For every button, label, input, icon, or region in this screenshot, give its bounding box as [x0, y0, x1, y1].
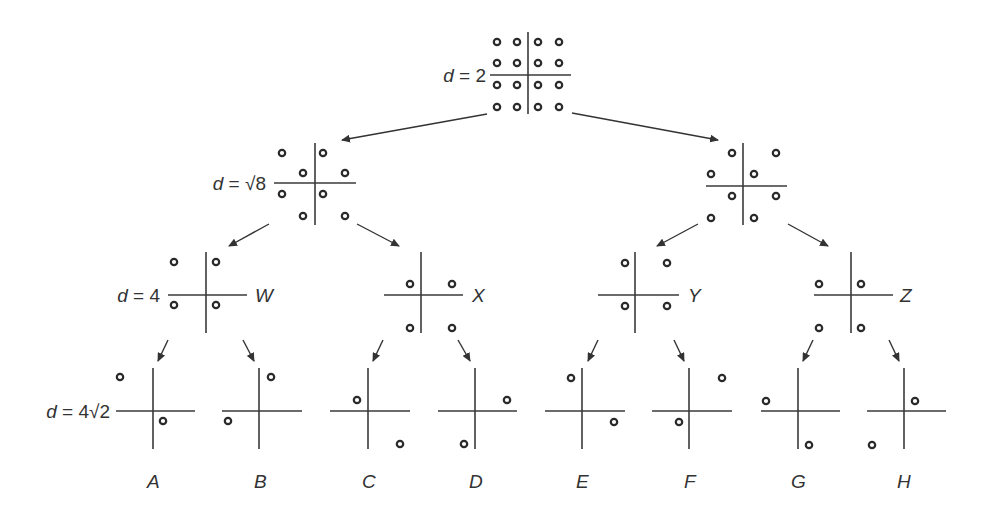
- subset-node-C: C: [330, 368, 410, 492]
- arrow-L1-left-to-W: [229, 224, 269, 246]
- arrow-root-to-L1-right: [572, 113, 718, 140]
- constellation-point-icon: [279, 150, 285, 156]
- constellation-point-icon: [556, 39, 562, 45]
- subset-label: F: [684, 471, 697, 492]
- subset-label: Y: [688, 285, 702, 306]
- constellation-point-icon: [461, 441, 467, 447]
- subset-node-A: A: [116, 368, 195, 492]
- constellation-point-icon: [535, 60, 541, 66]
- constellation-point-icon: [751, 215, 757, 221]
- constellation-point-icon: [556, 60, 562, 66]
- constellation-point-icon: [407, 325, 413, 331]
- constellation-point-icon: [622, 260, 628, 266]
- constellation-point-icon: [751, 171, 757, 177]
- constellation-point-icon: [320, 191, 326, 197]
- constellation-point-icon: [354, 397, 360, 403]
- constellation-point-icon: [535, 104, 541, 110]
- constellation-point-icon: [494, 39, 500, 45]
- min-distance-label: d = 4√2: [46, 401, 110, 422]
- constellation-point-icon: [117, 374, 123, 380]
- constellation-point-icon: [494, 82, 500, 88]
- constellation-point-icon: [869, 442, 875, 448]
- constellation-point-icon: [708, 215, 714, 221]
- constellation-point-icon: [708, 171, 714, 177]
- constellation-point-icon: [320, 150, 326, 156]
- constellation-point-icon: [504, 397, 510, 403]
- constellation-point-icon: [171, 302, 177, 308]
- arrow-Y-to-F: [674, 340, 684, 361]
- subset-label: X: [471, 285, 486, 306]
- nodes-layer: WXYZABCDEFGH: [116, 32, 946, 492]
- constellation-point-icon: [556, 82, 562, 88]
- constellation-point-icon: [171, 259, 177, 265]
- subset-node-H: H: [867, 368, 946, 492]
- constellation-point-icon: [213, 302, 219, 308]
- constellation-point-icon: [664, 303, 670, 309]
- constellation-point-icon: [514, 39, 520, 45]
- subset-node-F: F: [652, 368, 732, 492]
- constellation-point-icon: [494, 104, 500, 110]
- constellation-point-icon: [729, 193, 735, 199]
- subset-node-D: D: [438, 368, 517, 492]
- subset-node-Z: Z: [814, 252, 913, 333]
- constellation-point-icon: [729, 150, 735, 156]
- arrow-L1-right-to-Y: [657, 224, 698, 246]
- constellation-point-icon: [407, 281, 413, 287]
- constellation-point-icon: [300, 213, 306, 219]
- subset-label: Z: [899, 285, 913, 306]
- constellation-point-icon: [342, 170, 348, 176]
- arrow-Y-to-E: [588, 340, 598, 361]
- distance-labels: d = 2d = √8d = 4d = 4√2: [46, 65, 486, 422]
- constellation-point-icon: [719, 375, 725, 381]
- constellation-point-icon: [494, 60, 500, 66]
- constellation-point-icon: [858, 281, 864, 287]
- constellation-point-icon: [806, 442, 812, 448]
- subset-label: A: [146, 471, 160, 492]
- arrow-L1-left-to-X: [357, 224, 399, 246]
- constellation-point-icon: [279, 191, 285, 197]
- subset-node-W: W: [168, 252, 275, 333]
- arrow-W-to-A: [158, 340, 168, 361]
- arrow-Z-to-G: [803, 340, 813, 361]
- subset-node-L1-right: [706, 143, 787, 225]
- constellation-point-icon: [676, 419, 682, 425]
- subset-label: C: [362, 471, 376, 492]
- constellation-point-icon: [514, 82, 520, 88]
- min-distance-label: d = √8: [213, 173, 266, 194]
- subset-node-X: X: [384, 252, 486, 333]
- arrow-root-to-L1-left: [342, 114, 487, 140]
- arrow-L1-right-to-Z: [788, 224, 828, 246]
- subset-node-Y: Y: [598, 252, 702, 333]
- arrow-X-to-D: [458, 340, 470, 361]
- subset-node-root: [490, 32, 571, 114]
- partition-tree-diagram: WXYZABCDEFGH d = 2d = √8d = 4d = 4√2: [0, 0, 982, 519]
- constellation-point-icon: [225, 418, 231, 424]
- subset-label: G: [791, 471, 806, 492]
- constellation-point-icon: [514, 60, 520, 66]
- constellation-point-icon: [397, 441, 403, 447]
- subset-label: H: [897, 471, 911, 492]
- constellation-point-icon: [300, 170, 306, 176]
- constellation-point-icon: [611, 419, 617, 425]
- constellation-point-icon: [858, 325, 864, 331]
- constellation-point-icon: [816, 281, 822, 287]
- constellation-point-icon: [342, 213, 348, 219]
- constellation-point-icon: [449, 325, 455, 331]
- constellation-point-icon: [535, 82, 541, 88]
- constellation-point-icon: [556, 104, 562, 110]
- subset-node-E: E: [545, 368, 625, 492]
- arrow-Z-to-H: [889, 340, 899, 361]
- arrow-X-to-C: [373, 340, 383, 361]
- subset-node-G: G: [761, 368, 840, 492]
- constellation-point-icon: [773, 193, 779, 199]
- constellation-point-icon: [664, 260, 670, 266]
- constellation-point-icon: [535, 39, 541, 45]
- constellation-point-icon: [514, 104, 520, 110]
- subset-label: W: [255, 285, 275, 306]
- constellation-point-icon: [816, 325, 822, 331]
- constellation-point-icon: [773, 150, 779, 156]
- subset-node-L1-left: [274, 143, 356, 225]
- tree-canvas: WXYZABCDEFGH d = 2d = √8d = 4d = 4√2: [0, 0, 982, 519]
- edges-layer: [158, 113, 899, 361]
- subset-label: B: [254, 471, 267, 492]
